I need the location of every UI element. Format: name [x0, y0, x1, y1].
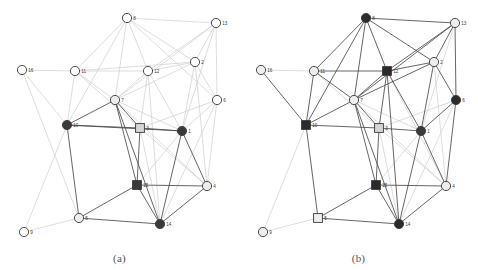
- graph-edge: [148, 71, 182, 131]
- graph-edge: [160, 100, 217, 224]
- figure-root: 12345678910111213141516 (a) 123456789101…: [0, 0, 478, 270]
- graph-edge: [160, 186, 207, 224]
- graph-node-label-11: 11: [320, 69, 325, 74]
- graph-node-10[interactable]: [62, 120, 71, 129]
- graph-edge: [387, 71, 446, 186]
- graph-node-9[interactable]: [258, 227, 267, 236]
- graph-node-12[interactable]: [383, 67, 392, 76]
- graph-node-11[interactable]: [309, 66, 318, 75]
- graph-node-5[interactable]: [74, 213, 83, 222]
- graph-node-label-5: 5: [85, 216, 88, 221]
- graph-node-3[interactable]: [375, 124, 384, 133]
- graph-edge: [455, 23, 456, 100]
- graph-node-label-10: 10: [312, 123, 318, 128]
- graph-node-14[interactable]: [155, 219, 164, 228]
- graph-edge: [366, 18, 434, 62]
- graph-edge: [75, 18, 127, 71]
- graph-node-4[interactable]: [441, 181, 450, 190]
- graph-edge: [24, 125, 67, 232]
- graph-node-label-15: 15: [382, 183, 388, 188]
- graph-node-5[interactable]: [314, 214, 323, 223]
- graph-node-label-13: 13: [222, 21, 228, 26]
- graph-node-7[interactable]: [110, 95, 119, 104]
- panel-a-caption: (a): [0, 252, 239, 264]
- graph-edge: [434, 62, 446, 186]
- graph-edge: [354, 18, 366, 100]
- graph-edge: [354, 100, 446, 186]
- graph-node-label-4: 4: [213, 184, 216, 189]
- graph-node-label-11: 11: [81, 69, 86, 74]
- graph-node-2[interactable]: [190, 57, 199, 66]
- faint-edge-layer: [22, 18, 217, 232]
- graph-node-label-16: 16: [267, 68, 273, 73]
- graph-node-10[interactable]: [302, 121, 311, 130]
- graph-node-label-9: 9: [30, 230, 33, 235]
- graph-edge: [79, 185, 137, 218]
- graph-edge: [67, 71, 75, 125]
- graph-edge: [216, 23, 217, 100]
- graph-node-label-5: 5: [324, 216, 327, 221]
- graph-edge: [387, 71, 399, 224]
- graph-edge: [263, 125, 306, 232]
- graph-edge: [75, 62, 195, 71]
- graph-node-11[interactable]: [70, 66, 79, 75]
- network-graph-b[interactable]: 12345678910111213141516: [239, 0, 478, 248]
- graph-edge: [182, 23, 216, 131]
- graph-node-1[interactable]: [416, 126, 425, 135]
- graph-node-label-12: 12: [154, 69, 160, 74]
- graph-edge: [261, 70, 306, 125]
- graph-node-label-1: 1: [188, 129, 191, 134]
- graph-edge: [306, 71, 314, 125]
- graph-edge: [140, 71, 148, 128]
- graph-node-14[interactable]: [394, 219, 403, 228]
- graph-edge: [366, 18, 387, 71]
- graph-node-label-16: 16: [28, 68, 34, 73]
- graph-node-1[interactable]: [177, 126, 186, 135]
- graph-node-16[interactable]: [256, 65, 265, 74]
- graph-edge: [182, 131, 207, 186]
- graph-node-13[interactable]: [211, 18, 220, 27]
- graph-edge: [314, 71, 379, 128]
- graph-node-8[interactable]: [122, 13, 131, 22]
- graph-node-3[interactable]: [136, 124, 145, 133]
- graph-node-13[interactable]: [450, 18, 459, 27]
- graph-node-4[interactable]: [202, 181, 211, 190]
- graph-node-8[interactable]: [361, 13, 370, 22]
- graph-edge: [207, 100, 217, 186]
- graph-node-label-10: 10: [73, 123, 79, 128]
- graph-node-15[interactable]: [133, 181, 142, 190]
- graph-edge: [67, 125, 79, 218]
- graph-edge: [354, 100, 399, 224]
- graph-node-7[interactable]: [349, 95, 358, 104]
- graph-node-label-2: 2: [201, 60, 204, 65]
- network-graph-a[interactable]: 12345678910111213141516: [0, 0, 239, 248]
- graph-node-6[interactable]: [451, 95, 460, 104]
- graph-edge: [399, 100, 456, 224]
- strong-edge-layer: [261, 18, 456, 224]
- graph-edge: [446, 100, 456, 186]
- graph-node-12[interactable]: [143, 66, 152, 75]
- graph-edge: [115, 18, 127, 100]
- graph-edge: [137, 128, 140, 185]
- graph-edge: [318, 185, 376, 218]
- graph-edge: [115, 100, 207, 186]
- graph-node-label-1: 1: [427, 129, 430, 134]
- graph-node-6[interactable]: [212, 95, 221, 104]
- graph-node-2[interactable]: [429, 57, 438, 66]
- graph-edge: [399, 186, 446, 224]
- graph-edge: [148, 71, 160, 224]
- graph-node-label-9: 9: [269, 230, 272, 235]
- graph-node-label-6: 6: [462, 98, 465, 103]
- graph-edge: [127, 18, 195, 62]
- graph-node-label-4: 4: [452, 184, 455, 189]
- graph-node-9[interactable]: [19, 227, 28, 236]
- graph-edge: [115, 62, 195, 100]
- graph-edge: [22, 70, 67, 125]
- graph-edge: [376, 128, 379, 185]
- graph-node-label-12: 12: [393, 69, 399, 74]
- network-panel-b: 12345678910111213141516 (b): [239, 0, 478, 270]
- graph-node-16[interactable]: [17, 65, 26, 74]
- graph-edge: [387, 71, 421, 131]
- graph-edge: [318, 218, 399, 224]
- graph-node-15[interactable]: [372, 181, 381, 190]
